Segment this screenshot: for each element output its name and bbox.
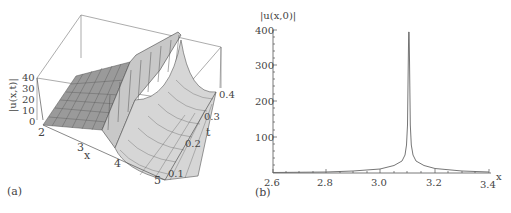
- z-tick: 30: [22, 83, 35, 94]
- x-tick-label: 3.2: [426, 177, 442, 188]
- x-axis-label: x: [496, 171, 502, 182]
- x-tick-label: 3.0: [371, 177, 387, 188]
- x-tick: 5: [154, 174, 161, 187]
- x-tick-label: 2.8: [317, 177, 333, 188]
- x-tick: 3: [77, 141, 84, 154]
- t-tick: 0.4: [219, 89, 235, 100]
- y-tick-label: 300: [255, 60, 274, 71]
- line-plot: 400 300 200 100 2.6 2.8 3.0 3.2 3.4 |u(x…: [255, 0, 511, 213]
- z-tick: 0: [29, 116, 35, 127]
- z-axis-label: |u(x,t)|: [7, 78, 19, 112]
- t-axis-label: t: [206, 126, 211, 139]
- panel-label-b: (b): [255, 186, 271, 199]
- line-plot-panel: 400 300 200 100 2.6 2.8 3.0 3.2 3.4 |u(x…: [255, 0, 511, 213]
- panel-label-a: (a): [7, 185, 22, 198]
- x-axis-label: x: [84, 149, 91, 162]
- surface-plot: 40 30 20 10 0 |u(x,t)| 2 3 4 5 x 0.1 0.2…: [0, 0, 255, 213]
- t-tick: 0.3: [204, 111, 220, 122]
- z-tick: 20: [22, 94, 35, 105]
- z-tick: 10: [22, 105, 35, 116]
- surface-plot-panel: 40 30 20 10 0 |u(x,t)| 2 3 4 5 x 0.1 0.2…: [0, 0, 255, 213]
- y-tick-label: 100: [255, 132, 274, 143]
- x-tick: 2: [38, 126, 45, 139]
- y-tick-label: 200: [255, 96, 274, 107]
- curve-u-x-0: [273, 32, 489, 173]
- t-tick: 0.2: [185, 138, 201, 149]
- x-tick: 4: [114, 157, 121, 170]
- t-tick: 0.1: [168, 168, 184, 179]
- y-tick-label: 400: [255, 25, 274, 36]
- x-tick-label: 3.4: [480, 179, 496, 190]
- z-tick: 40: [22, 72, 35, 83]
- y-axis-label: |u(x,0)|: [260, 10, 296, 22]
